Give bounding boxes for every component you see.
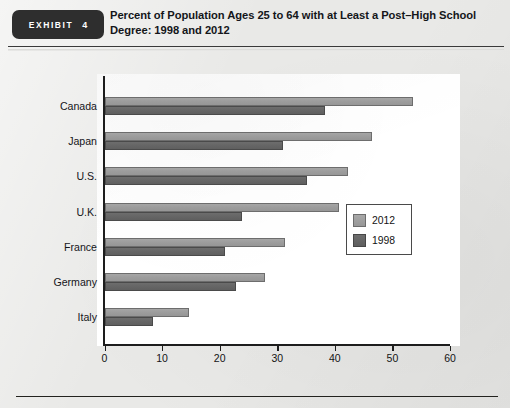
y-axis-label-uk: U.K. xyxy=(76,206,97,218)
bar-japan-1998 xyxy=(105,141,284,150)
bar-us-2012 xyxy=(105,167,348,176)
bar-germany-2012 xyxy=(105,273,266,282)
y-axis-label-japan: Japan xyxy=(68,135,97,147)
bar-uk-1998 xyxy=(105,212,242,221)
bar-japan-2012 xyxy=(105,132,373,141)
chart-legend: 20121998 xyxy=(346,204,412,255)
legend-item-1998: 1998 xyxy=(353,230,411,250)
x-tick-30 xyxy=(277,346,278,351)
page-title: Percent of Population Ages 25 to 64 with… xyxy=(110,8,502,37)
page-background: EXHIBIT 4 Percent of Population Ages 25 … xyxy=(0,0,510,408)
bar-france-2012 xyxy=(105,238,286,247)
x-tick-label-20: 20 xyxy=(214,352,226,364)
x-tick-0 xyxy=(105,346,106,351)
exhibit-tag: EXHIBIT 4 xyxy=(12,10,104,39)
footer-divider xyxy=(16,396,498,397)
legend-label-2012: 2012 xyxy=(372,215,395,226)
x-tick-60 xyxy=(450,346,451,351)
exhibit-header: EXHIBIT 4 Percent of Population Ages 25 … xyxy=(0,0,510,47)
x-tick-20 xyxy=(220,346,221,351)
bar-france-1998 xyxy=(105,247,226,256)
x-tick-label-30: 30 xyxy=(271,352,283,364)
y-axis-label-germany: Germany xyxy=(53,276,97,288)
legend-label-1998: 1998 xyxy=(372,235,395,246)
x-tick-10 xyxy=(162,346,163,351)
x-tick-label-10: 10 xyxy=(156,352,168,364)
x-tick-label-40: 40 xyxy=(329,352,341,364)
y-axis-label-canada: Canada xyxy=(60,100,97,112)
legend-swatch-1998 xyxy=(353,234,366,247)
legend-swatch-2012 xyxy=(353,214,366,227)
y-axis-line xyxy=(103,76,105,345)
x-tick-40 xyxy=(335,346,336,351)
bar-us-1998 xyxy=(105,176,308,185)
x-tick-label-0: 0 xyxy=(102,352,108,364)
bar-canada-2012 xyxy=(105,97,413,106)
bar-uk-2012 xyxy=(105,203,340,212)
bar-canada-1998 xyxy=(105,106,326,115)
header-divider xyxy=(8,46,504,47)
y-axis-label-france: France xyxy=(64,241,97,253)
y-axis-label-italy: Italy xyxy=(78,311,97,323)
bar-germany-1998 xyxy=(105,282,236,291)
header-divider-shadow xyxy=(8,49,504,52)
bar-italy-1998 xyxy=(105,317,154,326)
x-tick-label-50: 50 xyxy=(387,352,399,364)
x-tick-label-60: 60 xyxy=(444,352,456,364)
bar-italy-2012 xyxy=(105,308,190,317)
y-axis-label-us: U.S. xyxy=(76,170,97,182)
legend-item-2012: 2012 xyxy=(353,210,411,230)
x-tick-50 xyxy=(392,346,393,351)
exhibit-label: EXHIBIT xyxy=(29,20,74,30)
exhibit-number: 4 xyxy=(82,20,87,30)
